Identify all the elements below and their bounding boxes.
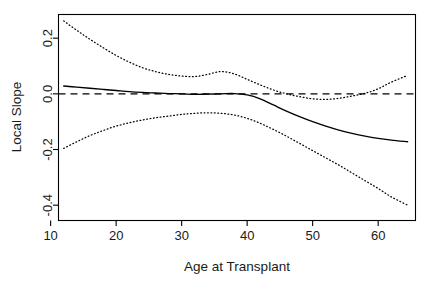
y-tick-label: -0.4 [40, 194, 55, 216]
y-tick-label: -0.2 [40, 138, 55, 160]
x-tick-label: 20 [109, 228, 123, 243]
y-tick-label: 0.2 [40, 29, 55, 47]
y-axis-title: Local Slope [9, 82, 24, 153]
chart-figure: 102030405060 0.20.0-0.2-0.4 Age at Trans… [0, 0, 430, 281]
x-tick-label: 40 [240, 228, 254, 243]
y-tick-label: 0.0 [40, 85, 55, 103]
plot-background [0, 0, 430, 281]
x-tick-label: 10 [43, 228, 57, 243]
x-tick-label: 50 [305, 228, 319, 243]
local-slope-plot: 102030405060 0.20.0-0.2-0.4 Age at Trans… [0, 0, 430, 281]
x-axis-title: Age at Transplant [184, 259, 290, 274]
x-tick-label: 30 [174, 228, 188, 243]
x-tick-label: 60 [371, 228, 385, 243]
